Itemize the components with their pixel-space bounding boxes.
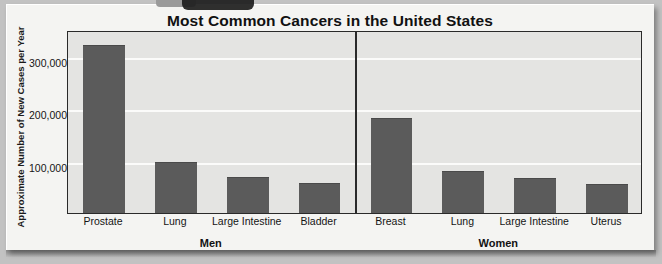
category-label: Bladder bbox=[283, 216, 355, 228]
plot-area bbox=[67, 31, 642, 214]
category-label: Prostate bbox=[67, 216, 139, 228]
category-label: Large Intestine bbox=[211, 216, 283, 228]
bar bbox=[227, 177, 269, 213]
y-tick-label: 100,000 bbox=[12, 162, 67, 174]
bar bbox=[442, 171, 484, 213]
bar bbox=[371, 118, 413, 213]
bar bbox=[83, 45, 125, 213]
bar bbox=[155, 162, 197, 213]
screenshot-root: Most Common Cancers in the United States… bbox=[0, 0, 662, 264]
group-divider bbox=[355, 32, 357, 213]
bar bbox=[586, 184, 628, 213]
category-label: Lung bbox=[139, 216, 211, 228]
category-label: Large Intestine bbox=[498, 216, 570, 228]
y-tick-label: 300,000 bbox=[12, 57, 67, 69]
bar bbox=[514, 178, 556, 214]
chart-title: Most Common Cancers in the United States bbox=[6, 12, 654, 30]
group-label: Men bbox=[67, 237, 355, 249]
y-tick-label: 200,000 bbox=[12, 109, 67, 121]
category-label: Lung bbox=[426, 216, 498, 228]
scanned-page-card: Most Common Cancers in the United States… bbox=[6, 4, 654, 250]
group-label: Women bbox=[355, 237, 643, 249]
group-labels: MenWomen bbox=[67, 237, 642, 253]
bar bbox=[299, 183, 341, 213]
category-label: Uterus bbox=[570, 216, 642, 228]
scan-artifact-dark bbox=[182, 0, 254, 10]
category-label: Breast bbox=[355, 216, 427, 228]
y-axis-tick-labels: 300,000 200,000 100,000 bbox=[12, 37, 67, 220]
